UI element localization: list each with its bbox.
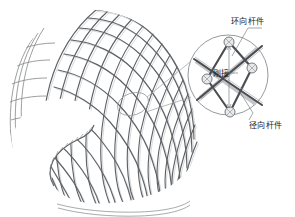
gridshell-figure: 环向杆件 刚接 径向杆件	[0, 0, 295, 217]
label-rigid-connection: 刚接	[213, 68, 230, 78]
gridshell-diagram-canvas: 环向杆件 刚接 径向杆件	[0, 0, 295, 217]
label-radial-member: 径向杆件	[249, 120, 282, 130]
node-bottom	[225, 107, 235, 117]
label-hoop-member: 环向杆件	[231, 16, 264, 26]
radial-members-group	[43, 10, 197, 216]
grid-shell-surface	[10, 10, 199, 217]
node-left	[202, 74, 212, 84]
shell-bottom-edge	[57, 201, 190, 216]
node-right	[247, 63, 257, 73]
